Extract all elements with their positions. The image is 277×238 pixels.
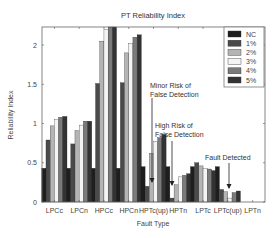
bar xyxy=(199,166,203,202)
bar xyxy=(187,174,191,202)
legend-label: 5% xyxy=(246,77,256,84)
bar xyxy=(166,167,170,202)
legend-label: 2% xyxy=(246,49,256,56)
bar xyxy=(108,27,112,202)
bar xyxy=(75,131,79,202)
bar xyxy=(91,168,95,202)
bar xyxy=(83,121,87,202)
x-tick-label: LPCn xyxy=(70,207,88,214)
arrow-head-icon xyxy=(170,181,175,186)
bar xyxy=(120,83,124,202)
legend: NC1%2%3%4%5% xyxy=(224,27,264,87)
y-axis-label: Reliability Index xyxy=(7,90,15,140)
x-tick-label: LPTn xyxy=(244,207,261,214)
bar xyxy=(174,185,178,202)
legend-swatch xyxy=(228,49,241,55)
bar xyxy=(170,198,174,202)
bar xyxy=(129,43,133,202)
arrow-head-icon xyxy=(227,184,232,189)
bar xyxy=(137,35,141,202)
x-tick-label: HPTn xyxy=(169,207,187,214)
bar xyxy=(236,191,240,202)
legend-swatch xyxy=(228,31,241,37)
legend-label: NC xyxy=(246,31,256,38)
legend-label: 3% xyxy=(246,58,256,65)
bar xyxy=(63,116,67,202)
bar xyxy=(88,121,92,202)
legend-swatch xyxy=(228,77,241,83)
annotation-text: High Risk of xyxy=(155,122,193,130)
x-tick-label: LPTc(up) xyxy=(214,207,242,215)
x-tick-label: HPTc(up) xyxy=(139,207,168,215)
bar xyxy=(162,135,166,202)
bar xyxy=(42,168,46,202)
bar xyxy=(145,186,149,202)
reliability-bar-chart: PT Reliability Index 00.511.52 LPCcLPCnH… xyxy=(0,0,277,238)
annotation-text: Fault Detected xyxy=(205,154,251,161)
annotation-text: Minor Risk of xyxy=(150,82,191,89)
x-tick-label: HPCc xyxy=(95,207,114,214)
y-tick-label: 1.5 xyxy=(27,81,37,88)
bar xyxy=(100,41,104,202)
legend-swatch xyxy=(228,40,241,46)
bar xyxy=(232,193,236,202)
y-tick-label: 0 xyxy=(33,199,37,206)
bar xyxy=(195,163,199,202)
bar xyxy=(228,198,232,202)
bar xyxy=(182,175,186,202)
bar xyxy=(67,168,71,202)
bar xyxy=(125,53,129,202)
bar xyxy=(154,142,158,202)
legend-label: 4% xyxy=(246,67,256,74)
x-axis-label: Fault Type xyxy=(137,220,170,228)
bar xyxy=(50,126,54,202)
bar xyxy=(71,144,75,202)
bar xyxy=(59,117,63,202)
annotation-text: False Detection xyxy=(155,131,204,138)
y-tick-label: 1 xyxy=(33,120,37,127)
bar xyxy=(46,140,50,202)
bar xyxy=(149,153,153,202)
bar xyxy=(104,29,108,202)
x-tick-label: HPCn xyxy=(119,207,138,214)
bar xyxy=(96,84,100,202)
bar xyxy=(158,138,162,202)
bar xyxy=(178,177,182,202)
y-tick-label: 2 xyxy=(33,42,37,49)
bar xyxy=(141,167,145,202)
chart-title: PT Reliability Index xyxy=(121,11,185,20)
legend-label: 1% xyxy=(246,40,256,47)
annotation-text: False Detection xyxy=(150,91,199,98)
bar xyxy=(203,168,207,202)
bar xyxy=(207,169,211,202)
legend-swatch xyxy=(228,59,241,65)
bar xyxy=(190,167,194,202)
x-tick-label: LPTc xyxy=(195,207,211,214)
bar xyxy=(215,167,219,202)
legend-swatch xyxy=(228,68,241,74)
bar xyxy=(224,192,228,202)
bar xyxy=(116,168,120,202)
x-tick-label: LPCc xyxy=(46,207,64,214)
bar xyxy=(112,27,116,202)
bar xyxy=(133,37,137,202)
bar xyxy=(79,125,83,202)
bar xyxy=(54,120,58,202)
bar xyxy=(211,171,215,202)
bar xyxy=(219,189,223,202)
y-tick-label: 0.5 xyxy=(27,159,37,166)
